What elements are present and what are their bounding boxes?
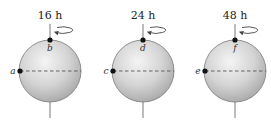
equator-point-label: a [10,66,15,76]
sphere-group-1: 16 h b a [10,9,81,118]
rotation-arrow-icon [56,27,73,33]
period-label: 48 h [223,9,248,22]
equator-point-label: e [195,66,200,76]
pole-point [140,37,145,42]
equator-point [202,68,207,73]
pole-point-label: b [47,43,53,53]
rotation-arrow-icon [241,27,258,33]
sphere-group-2: 24 h d c [103,9,174,118]
period-label: 24 h [131,9,156,22]
period-label: 16 h [38,9,63,22]
pole-point [47,37,52,42]
equator-point [17,68,22,73]
diagram-canvas: 16 h b a 24 h d c 48 h f e [0,0,271,126]
sphere-group-3: 48 h f e [195,9,266,118]
rotation-arrow-icon [149,27,166,33]
equator-point-label: c [103,66,108,76]
pole-point [232,37,237,42]
pole-point-label: d [140,43,146,53]
equator-point [110,68,115,73]
